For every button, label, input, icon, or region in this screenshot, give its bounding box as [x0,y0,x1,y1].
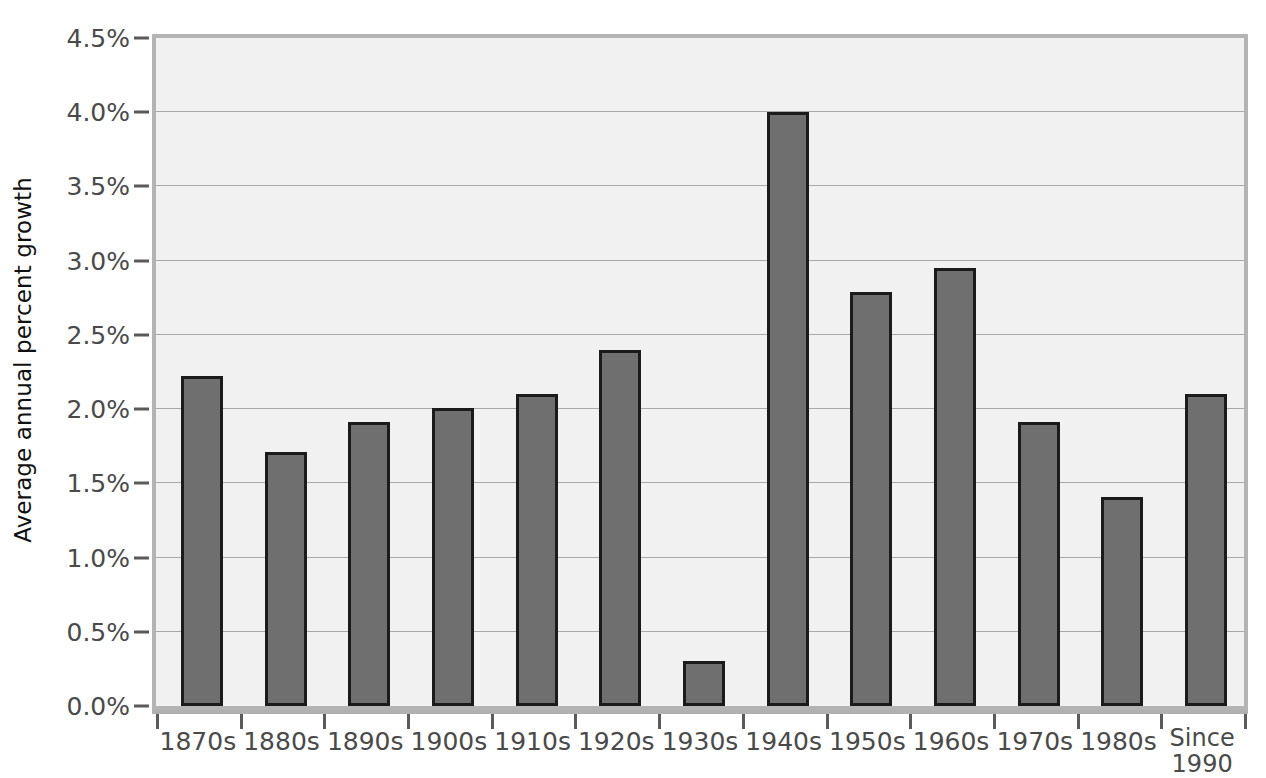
x-axis-tick-label: 1890s [327,729,404,754]
bar-slot [411,38,495,706]
bar[interactable] [1101,497,1143,706]
x-axis-tick-label: 1910s [494,729,571,754]
y-axis-tick-mark [134,408,149,411]
bar-slot [662,38,746,706]
bar[interactable] [850,292,892,706]
bar[interactable] [348,422,390,706]
x-axis-tick-label: 1980s [1080,729,1157,754]
bar-slot [327,38,411,706]
x-axis-tick-label: 1900s [411,729,488,754]
x-axis-tick-labels: 1870s1880s1890s1900s1910s1920s1930s1940s… [152,729,1248,778]
bar-slot [830,38,914,706]
x-axis-tick-label: 1880s [243,729,320,754]
x-axis-tick-label-line: 1930s [662,727,739,756]
bar-slot [1164,38,1248,706]
x-axis-tick-label: 1870s [160,729,237,754]
y-axis-tick-label: 1.5% [66,469,130,498]
bar[interactable] [599,350,641,706]
x-axis-tick-label: 1920s [578,729,655,754]
bar[interactable] [767,112,809,706]
bars-layer [156,38,1244,706]
x-axis-tick-mark [1160,714,1163,729]
x-axis-tick-label-line: 1960s [913,727,990,756]
x-axis-tick-label-line: Since [1170,724,1235,752]
bar[interactable] [516,394,558,706]
y-axis-tick-label: 0.5% [66,617,130,646]
y-axis-title-text: Average annual percent growth [10,177,36,543]
bar-slot [913,38,997,706]
x-axis-tick-label-line: 1920s [578,727,655,756]
x-axis-tick-label: 1930s [662,729,739,754]
bar[interactable] [934,268,976,706]
bar-slot [160,38,244,706]
bar[interactable] [181,376,223,706]
y-axis-tick-label: 3.5% [66,172,130,201]
x-axis-tick-label-line: 1900s [411,727,488,756]
bar[interactable] [432,408,474,706]
y-axis-tick-mark [134,333,149,336]
x-axis-tick-label: 1940s [745,729,822,754]
bar-slot [746,38,830,706]
y-axis-tick-label: 2.0% [66,395,130,424]
x-axis-tick-label-line: 1950s [829,727,906,756]
x-axis-tick-mark [1244,714,1247,729]
x-axis-tick-label-line: 1910s [494,727,571,756]
y-axis-tick-mark [134,185,149,188]
y-axis-tick-label: 2.5% [66,320,130,349]
bar-slot [244,38,328,706]
bar[interactable] [265,452,307,706]
x-axis-tick-label-line: 1880s [243,727,320,756]
plot-area [152,34,1248,710]
bar-slot [997,38,1081,706]
y-axis-title: Average annual percent growth [0,0,46,720]
x-axis-tick-label-line: 1990 [1170,751,1235,777]
bar-chart: Average annual percent growth 0.0%0.5%1.… [0,0,1266,778]
y-axis-tick-mark [134,259,149,262]
x-axis-tick-label: 1960s [913,729,990,754]
bar[interactable] [1185,394,1227,706]
y-axis-tick-mark [134,482,149,485]
y-axis-tick-mark [134,37,149,40]
y-axis-tick-mark [134,556,149,559]
x-axis-tick-label-line: 1890s [327,727,404,756]
x-axis-tick-label: 1970s [996,729,1073,754]
y-axis-tick-label: 4.0% [66,98,130,127]
y-axis-tick-label: 4.5% [66,24,130,53]
y-axis-tick-mark [134,111,149,114]
y-axis-tick-labels: 0.0%0.5%1.0%1.5%2.0%2.5%3.0%3.5%4.0%4.5% [46,34,130,708]
bar-slot [1081,38,1165,706]
plot-inner [156,38,1244,706]
x-axis-tick-label-line: 1940s [745,727,822,756]
bar-slot [578,38,662,706]
y-axis-tick-mark [134,705,149,708]
y-axis-tick-label: 0.0% [66,692,130,721]
bar[interactable] [1018,422,1060,706]
x-axis-tick-label: Since1990 [1170,725,1235,777]
x-axis-tick-label: 1950s [829,729,906,754]
x-axis-tick-label-line: 1870s [160,727,237,756]
x-axis-tick-label-line: 1980s [1080,727,1157,756]
x-axis-tick-label-line: 1970s [996,727,1073,756]
y-axis-tick-mark [134,630,149,633]
bar-slot [495,38,579,706]
bar[interactable] [683,661,725,706]
y-axis-tick-label: 1.0% [66,543,130,572]
y-axis-tick-label: 3.0% [66,246,130,275]
